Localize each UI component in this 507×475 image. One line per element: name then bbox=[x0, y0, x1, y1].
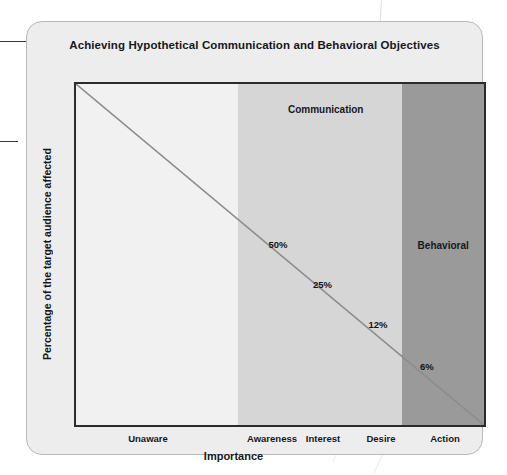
x-axis-title-text: Importance bbox=[204, 450, 263, 462]
x-tick-desire: Desire bbox=[366, 433, 395, 444]
data-label-25: 25% bbox=[313, 279, 332, 290]
x-tick-action: Action bbox=[430, 433, 460, 444]
x-tick-awareness: Awareness bbox=[247, 433, 297, 444]
y-axis-title: Percentage of the target audience affect… bbox=[41, 82, 53, 427]
figure-card: Achieving Hypothetical Communication and… bbox=[26, 21, 483, 455]
page-margin-rule-middle bbox=[0, 141, 18, 142]
data-label-6: 6% bbox=[420, 361, 434, 372]
scanned-page: Achieving Hypothetical Communication and… bbox=[0, 0, 507, 475]
data-label-12: 12% bbox=[368, 319, 387, 330]
chart-title: Achieving Hypothetical Communication and… bbox=[27, 39, 482, 51]
plot-area: Communication Behavioral 50% 25% 12% 6% … bbox=[74, 82, 486, 427]
x-tick-unaware: Unaware bbox=[128, 433, 168, 444]
band-label-behavioral: Behavioral bbox=[418, 240, 469, 251]
x-axis-title: Importance bbox=[27, 450, 482, 462]
band-label-communication: Communication bbox=[288, 104, 364, 115]
x-tick-interest: Interest bbox=[306, 433, 340, 444]
decline-line bbox=[76, 84, 484, 425]
data-label-50: 50% bbox=[268, 238, 287, 249]
